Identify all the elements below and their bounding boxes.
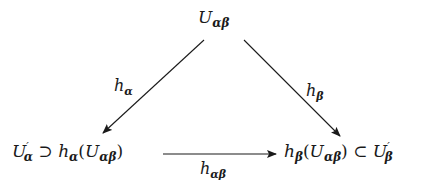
paren-open: ( bbox=[303, 141, 310, 161]
subset-symbol: ⊂ bbox=[353, 141, 367, 161]
label-h-beta: hβ bbox=[306, 83, 324, 102]
label-h-alphabeta: hαβ bbox=[200, 161, 226, 180]
subscript-alphabeta: αβ bbox=[210, 168, 226, 181]
label-h-alpha: hα bbox=[114, 78, 133, 97]
subscript-beta: β bbox=[295, 150, 303, 164]
symbol-h: h bbox=[200, 159, 210, 178]
subscript-beta: β bbox=[385, 150, 393, 164]
arrow-h-beta bbox=[244, 40, 340, 136]
symbol-u: U bbox=[85, 141, 99, 161]
paren-close: ) bbox=[116, 141, 123, 161]
subscript-beta: β bbox=[316, 90, 323, 103]
node-left-h-alpha-image: U′α ⊃ hα(Uαβ) bbox=[12, 141, 123, 163]
symbol-h: h bbox=[284, 141, 295, 161]
paren-close: ) bbox=[341, 141, 348, 161]
subscript-alpha: α bbox=[124, 85, 132, 98]
superset-symbol: ⊃ bbox=[38, 141, 52, 161]
subscript-alpha: α bbox=[69, 150, 78, 164]
paren-open: ( bbox=[78, 141, 85, 161]
symbol-u: U bbox=[310, 141, 324, 161]
symbol-h: h bbox=[306, 81, 316, 100]
symbol-h: h bbox=[114, 76, 124, 95]
symbol-u: U bbox=[198, 7, 212, 27]
node-top-u-alphabeta: Uαβ bbox=[198, 9, 230, 29]
subscript-alphabeta: αβ bbox=[212, 16, 229, 30]
symbol-h: h bbox=[58, 141, 69, 161]
subscript-alpha: α bbox=[24, 150, 33, 164]
subscript-alphabeta: αβ bbox=[99, 150, 116, 164]
node-right-h-beta-image: hβ(Uαβ) ⊂ U′β bbox=[284, 141, 393, 163]
subscript-alphabeta: αβ bbox=[324, 150, 341, 164]
